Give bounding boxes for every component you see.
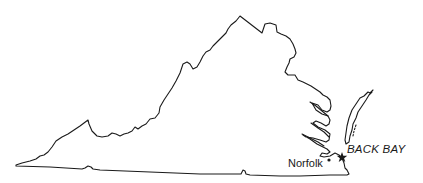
norfolk-marker-dot [327,158,330,161]
back-bay-star-icon [337,152,348,162]
state-outline [16,16,349,176]
eastern-shore [345,90,373,144]
eastern-shore-islands [353,125,356,136]
back-bay-label: BACK BAY [347,144,405,156]
norfolk-label: Norfolk [288,158,323,169]
river-inlet-north [310,102,328,116]
state-outline-svg [0,0,423,183]
river-inlet-middle [311,123,329,137]
